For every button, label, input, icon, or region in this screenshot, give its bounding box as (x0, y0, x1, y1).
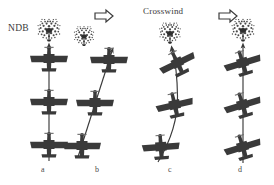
ndb-tracking-figure: NDB Crosswind a b c d (0, 0, 274, 185)
panel-d (221, 19, 265, 165)
aircraft-d2 (221, 87, 265, 123)
aircraft-a1 (30, 46, 68, 72)
wind-arrow-1-icon (95, 10, 113, 22)
figure-canvas (0, 0, 274, 185)
wind-arrow-2-icon (219, 10, 237, 22)
aircraft-b2 (76, 90, 114, 116)
panel-a (30, 19, 68, 161)
ndb-beacon-a (38, 19, 61, 42)
ndb-label: NDB (8, 24, 29, 34)
aircraft-c1 (155, 43, 200, 83)
aircraft-d1 (221, 45, 265, 81)
panel-caption-b: b (95, 166, 99, 174)
panel-c (141, 22, 200, 162)
crosswind-label: Crosswind (143, 7, 183, 16)
ndb-beacon-b (74, 26, 94, 46)
aircraft-b1 (90, 47, 128, 73)
panel-caption-a: a (41, 166, 45, 174)
aircraft-b3 (63, 133, 101, 159)
ndb-beacon-c (159, 22, 181, 43)
aircraft-a3 (30, 132, 68, 158)
aircraft-a2 (30, 89, 68, 115)
panel-caption-d: d (238, 166, 242, 174)
aircraft-c3 (141, 133, 181, 161)
panel-caption-c: c (168, 166, 172, 174)
panel-b (63, 26, 128, 159)
ndb-beacon-d (232, 19, 255, 42)
aircraft-c2 (153, 88, 196, 122)
aircraft-d3 (221, 129, 265, 165)
